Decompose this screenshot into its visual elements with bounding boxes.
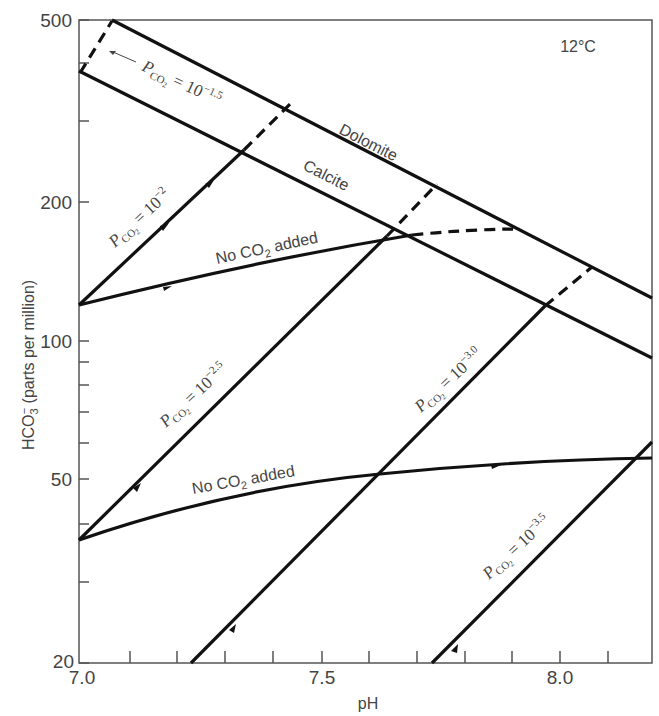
x-axis-title: pH [358, 695, 378, 712]
pco2-3-0-dashed-extension [545, 267, 592, 306]
chart-series [79, 20, 652, 663]
calcite-line [79, 71, 652, 358]
pco2-2-dashed-extension [244, 104, 290, 150]
y-tick-labels: 500 200 100 50 20 [40, 10, 74, 672]
calcite-label: Calcite [301, 157, 352, 194]
dolomite-label: Dolomite [337, 121, 401, 165]
x-tick-7-0: 7.0 [69, 667, 95, 688]
y-tick-200: 200 [40, 192, 72, 213]
arrow-icon [163, 286, 172, 291]
pco2-2-5-dashed-extension [387, 184, 437, 236]
y-tick-500: 500 [40, 10, 72, 31]
no-co2-upper-label: No CO2 added [214, 229, 320, 270]
dolomite-line [112, 20, 652, 298]
pco2-1-5-label: PCO2 = 10−1.5 [137, 54, 226, 113]
x-tick-8-0: 8.0 [547, 667, 573, 688]
chart-canvas: 500 200 100 50 20 7.0 7.5 8.0 pH HCO3− (… [0, 0, 659, 716]
pco2-3-0-label: PCO2 = 10−3.0 [409, 342, 489, 419]
plot-frame [79, 20, 652, 663]
y-tick-50: 50 [51, 469, 72, 490]
temperature-annotation: 12°C [560, 38, 596, 55]
y-axis-title: HCO3− (parts per million) [18, 280, 40, 450]
pco2-2-5-line [79, 236, 387, 540]
arrow-icon [491, 465, 501, 469]
pco2-1-5-dashed-line [80, 21, 112, 73]
no-co2-upper-dashed-extension [412, 229, 520, 235]
pco2-3-5-line [432, 442, 652, 663]
pco2-2-5-label: PCO2 = 10−2.5 [154, 357, 234, 434]
x-tick-7-5: 7.5 [309, 667, 335, 688]
pco2-2-label: PCO2 = 10−2 [103, 183, 177, 254]
leader-line [113, 52, 136, 62]
x-tick-labels: 7.0 7.5 8.0 [69, 667, 573, 688]
y-tick-100: 100 [40, 331, 72, 352]
arrow-icon [451, 644, 458, 653]
y-axis-ticks [79, 20, 89, 663]
